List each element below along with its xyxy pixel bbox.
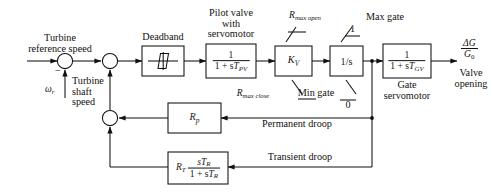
permanent-droop-path-label: Permanent droop <box>262 119 332 130</box>
max-gate-label: Max gate <box>366 12 404 23</box>
summing-junction-3 <box>102 110 117 125</box>
pilot-valve-caption: Pilot valve with servomotor <box>208 8 254 40</box>
kv-gain-label: KV <box>288 54 299 67</box>
gate-servomotor-transfer-function: 1 1 + sTGV <box>388 50 425 72</box>
limit-slash-rate-max-open <box>286 27 296 42</box>
turbine-shaft-speed-label: Turbine shaft speed <box>72 76 104 108</box>
rate-max-close-label: Rmax close <box>237 88 270 99</box>
gate-servomotor-caption: Gate servomotor <box>384 80 430 101</box>
valve-opening-caption: Valve opening <box>455 68 488 89</box>
transient-droop-path-label: Transient droop <box>268 152 332 163</box>
limit-slash-min-gate <box>346 80 356 94</box>
transient-droop-transfer-function: RT sTR 1 + sTR <box>176 157 220 180</box>
summing-junction-2 <box>102 53 117 68</box>
tap-node-permanent-branch <box>370 116 374 120</box>
turbine-reference-speed-label: Turbine reference speed <box>28 33 92 54</box>
pilot-valve-transfer-function: 1 1 + sTPV <box>213 50 250 72</box>
omega-r-label: ωr <box>45 84 54 95</box>
min-gate-value: 0 <box>345 100 350 111</box>
deadband-caption: Deadband <box>142 32 183 43</box>
max-gate-value: 1 <box>350 24 355 35</box>
permanent-droop-gain-label: Rp <box>190 111 200 124</box>
negative-sign-label: − <box>55 66 61 77</box>
rate-max-open-label: Rmax open <box>289 10 321 21</box>
min-gate-label: Min gate <box>298 88 335 99</box>
tap-node-integrator-output <box>370 59 374 63</box>
block-diagram-canvas: Turbine reference speed − ωr Turbine sha… <box>0 0 492 195</box>
integrator-label: 1/s <box>341 56 353 67</box>
output-ratio-label: ΔG G0 <box>461 38 478 60</box>
